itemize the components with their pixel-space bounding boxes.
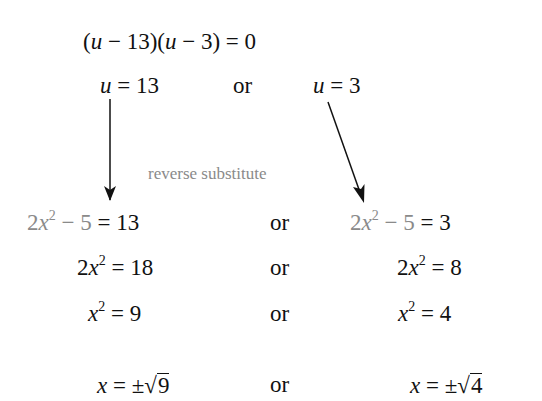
root-u-13: u = 13 — [100, 74, 159, 97]
var-u: u — [313, 73, 325, 98]
step1-left: 2x2 − 5 = 13 — [27, 211, 139, 234]
substituted-expression: 2x2 − 5 — [27, 210, 92, 235]
substituted-expression: 2x2 − 5 — [350, 210, 415, 235]
square-root: √4 — [457, 373, 482, 398]
step4-left: x = ±√9 — [97, 373, 169, 398]
step2-left: 2x2 = 18 — [77, 256, 153, 279]
radicand-4: 4 — [470, 373, 483, 398]
value-13: = 13 — [117, 73, 159, 98]
conj-or-4: or — [270, 302, 289, 325]
step3-left: x2 = 9 — [88, 302, 141, 325]
conj-or-5: or — [270, 373, 289, 396]
arrows — [0, 0, 542, 401]
step3-right: x2 = 4 — [398, 302, 451, 325]
step2-right: 2x2 = 8 — [397, 256, 462, 279]
radicand-9: 9 — [157, 373, 170, 398]
value-3: = 3 — [330, 73, 360, 98]
step4-right: x = ±√4 — [410, 373, 482, 398]
plus-minus: = ± — [426, 373, 457, 398]
square-root: √9 — [144, 373, 169, 398]
step1-right: 2x2 − 5 = 3 — [350, 211, 451, 234]
conj-or-1: or — [233, 74, 252, 97]
conj-or-2: or — [270, 211, 289, 234]
arrow-right — [328, 102, 362, 198]
plus-minus: = ± — [113, 373, 144, 398]
reverse-substitute-label: reverse substitute — [148, 164, 267, 184]
root-u-3: u = 3 — [313, 74, 360, 97]
factored-equation: (u − 13)(u − 3) = 0 — [83, 30, 256, 53]
var-u: u — [100, 73, 112, 98]
conj-or-3: or — [270, 256, 289, 279]
